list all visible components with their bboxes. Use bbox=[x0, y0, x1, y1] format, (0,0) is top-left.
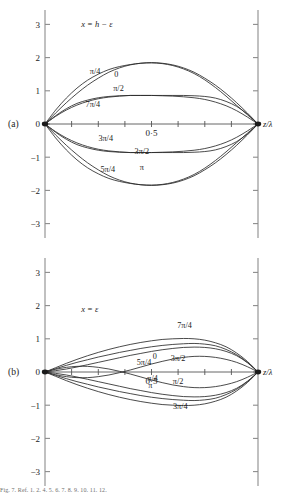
panel-a: 3210−1−2−30·50π/4π/23π/4π5π/43π/27π/4x =… bbox=[0, 0, 284, 248]
curve-label-pi-2: π/2 bbox=[113, 84, 124, 93]
y-tick-label: 1 bbox=[36, 86, 41, 96]
node-right bbox=[255, 370, 261, 375]
curve-label-5pi-4: 5π/4 bbox=[100, 165, 115, 174]
figure-caption: Fig. 7. Ref. 1. 2. 4. 5. 6. 7. 8. 9. 10.… bbox=[0, 487, 284, 493]
curve-label-3pi-2: 3π/2 bbox=[171, 354, 186, 363]
node-left bbox=[42, 122, 48, 127]
curve-label-0: 0 bbox=[153, 352, 157, 361]
panel-b: 3210−1−2−30·50π/4π/23π/4π5π/43π/27π/4x =… bbox=[0, 248, 284, 496]
y-tick-label: −3 bbox=[30, 467, 40, 477]
curve-0 bbox=[45, 343, 258, 372]
y-tick-label: −3 bbox=[30, 219, 40, 229]
x-axis-label: z/λ bbox=[262, 367, 273, 377]
curve-pi-2 bbox=[45, 95, 258, 124]
panel-annotation: x = h − ε bbox=[80, 19, 113, 29]
curve-label-3pi-4: 3π/4 bbox=[98, 134, 113, 143]
y-tick-label: 2 bbox=[36, 53, 41, 63]
y-tick-label: 2 bbox=[36, 301, 41, 311]
node-left bbox=[42, 370, 48, 375]
curve-label-5pi-4: 5π/4 bbox=[137, 358, 152, 367]
curve-label-pi: π bbox=[140, 163, 145, 172]
curve-label-7pi-4: 7π/4 bbox=[86, 100, 101, 109]
panel-tag: (b) bbox=[8, 367, 19, 378]
x-axis-label: z/λ bbox=[262, 119, 273, 129]
curve-0 bbox=[45, 63, 258, 124]
y-tick-label: −2 bbox=[30, 186, 40, 196]
curve-label-0: 0 bbox=[114, 70, 118, 79]
node-right bbox=[255, 122, 261, 127]
y-tick-label: −1 bbox=[30, 153, 40, 163]
panel-tag: (a) bbox=[8, 119, 19, 130]
y-tick-label: 0 bbox=[36, 367, 41, 377]
y-tick-label: 3 bbox=[36, 268, 41, 278]
curve-label-3pi-2: 3π/2 bbox=[135, 147, 150, 156]
curve-label-7pi-4: 7π/4 bbox=[177, 321, 192, 330]
curve-label-pi-4: π/4 bbox=[90, 67, 101, 76]
y-tick-label: −1 bbox=[30, 401, 40, 411]
y-tick-label: 3 bbox=[36, 20, 41, 30]
figure-root: 3210−1−2−30·50π/4π/23π/4π5π/43π/27π/4x =… bbox=[0, 0, 284, 496]
curve-label-pi-2: π/2 bbox=[173, 377, 184, 386]
curve-7pi-4 bbox=[45, 95, 258, 124]
panel-annotation: x = ε bbox=[80, 304, 99, 314]
y-tick-label: 0 bbox=[36, 119, 41, 129]
y-tick-label: 1 bbox=[36, 334, 41, 344]
y-tick-label: −2 bbox=[30, 434, 40, 444]
curve-label-3pi-4: 3π/4 bbox=[173, 402, 188, 411]
x-tick-label: 0·5 bbox=[146, 128, 158, 138]
